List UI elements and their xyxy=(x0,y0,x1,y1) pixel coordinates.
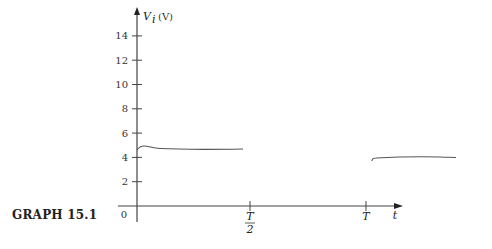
svg-text:2: 2 xyxy=(246,223,254,236)
y-tick-label-12: 12 xyxy=(115,55,128,66)
y-tick-labels: 2 4 6 8 10 12 14 xyxy=(115,30,128,187)
curve-segment-1 xyxy=(137,146,243,150)
svg-text:V: V xyxy=(143,10,152,23)
x-tick-label-0: 0 xyxy=(121,209,127,220)
svg-text:i: i xyxy=(152,13,156,26)
y-tick-label-8: 8 xyxy=(122,103,128,114)
y-axis-label: V i (V) xyxy=(143,10,173,26)
y-tick-label-10: 10 xyxy=(115,79,128,90)
y-tick-label-4: 4 xyxy=(122,152,128,163)
svg-text:T: T xyxy=(246,210,255,223)
graph-caption: GRAPH 15.1 xyxy=(12,208,97,222)
y-tick-label-2: 2 xyxy=(122,176,128,187)
svg-text:(V): (V) xyxy=(158,11,173,22)
y-axis-arrow-icon xyxy=(134,7,140,15)
curve-segment-2 xyxy=(372,157,456,161)
y-tick-label-6: 6 xyxy=(122,128,128,139)
x-tick-label-half-T: T 2 xyxy=(245,210,255,236)
x-tick-label-T: T xyxy=(362,210,371,223)
y-tick-label-14: 14 xyxy=(115,30,128,41)
x-axis-label: t xyxy=(393,209,398,222)
